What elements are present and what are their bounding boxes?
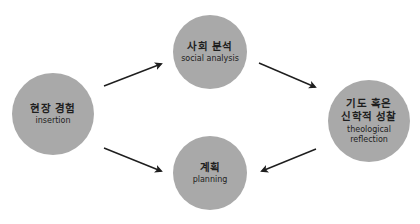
node-social-analysis-korean-label: 사회 분석 xyxy=(187,40,232,53)
node-insertion-english-label: insertion xyxy=(36,116,71,126)
arrow-insertion-to-planning xyxy=(104,148,161,171)
arrow-theological-reflection-to-planning xyxy=(262,149,316,171)
node-insertion: 현장 경험 insertion xyxy=(12,73,94,155)
node-social-analysis-english-label: social analysis xyxy=(181,54,239,64)
node-theological-reflection-english-line1: theological xyxy=(347,125,391,135)
node-planning-korean-label: 계획 xyxy=(200,161,221,174)
node-social-analysis: 사회 분석 social analysis xyxy=(173,15,247,89)
cycle-diagram: 현장 경험 insertion 사회 분석 social analysis 기도… xyxy=(0,0,420,224)
node-insertion-korean-label: 현장 경험 xyxy=(30,102,75,115)
arrow-insertion-to-social-analysis xyxy=(104,64,161,86)
node-theological-reflection-korean-line1: 기도 혹은 xyxy=(346,97,391,110)
node-theological-reflection-korean-line2: 신학적 성찰 xyxy=(341,110,396,123)
node-theological-reflection-english-line2: reflection xyxy=(350,135,388,145)
arrow-social-analysis-to-theological-reflection xyxy=(259,63,315,87)
node-planning: 계획 planning xyxy=(173,136,247,210)
node-planning-english-label: planning xyxy=(193,175,228,185)
node-theological-reflection: 기도 혹은 신학적 성찰 theological reflection xyxy=(328,80,410,162)
